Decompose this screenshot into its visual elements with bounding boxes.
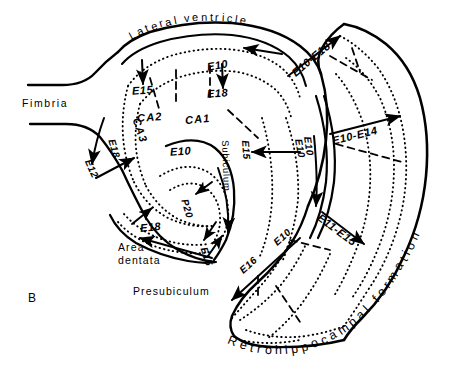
age-label-e18-dentate: E18 (139, 221, 161, 234)
age-label-e15-ca2: E15 (132, 84, 154, 96)
region-label-subiculum: Subiculum (221, 140, 232, 192)
panel-label-b: B (28, 292, 36, 304)
age-label-e10-vertical-retro: E10 (302, 136, 315, 157)
age-label-e10-hilus: E10 (170, 145, 192, 157)
region-label-presubiculum: Presubiculum (133, 286, 210, 297)
hippocampus-schematic-drawing (0, 0, 472, 370)
figure-canvas: Fimbria CA1 CA2 CA3 Area dentata Presubi… (0, 0, 472, 370)
age-label-e15-subiculum: E15 (240, 140, 251, 160)
region-label-area-dentata-line2: dentata (118, 255, 161, 266)
fimbria-outline (28, 52, 122, 170)
region-label-fimbria: Fimbria (22, 98, 68, 109)
region-label-area-dentata-line1: Area (118, 242, 145, 253)
age-label-e18-ca1: E18 (207, 87, 229, 99)
